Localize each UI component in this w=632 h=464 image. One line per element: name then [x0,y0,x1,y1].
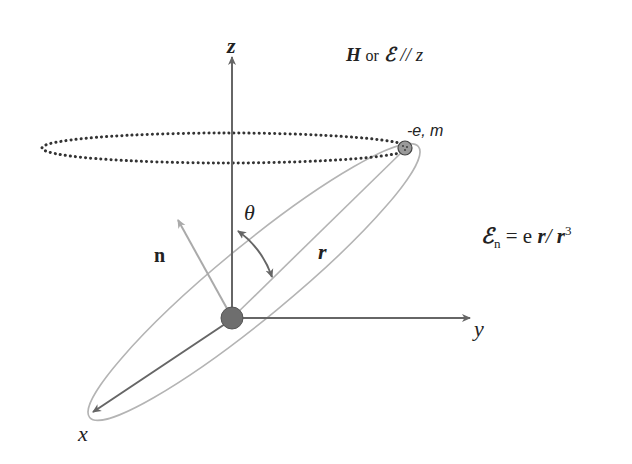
z-axis-label: z [227,35,236,57]
radius-vector-line [232,150,404,318]
z-direction: z [416,44,423,65]
formula-field-symbol: ℰ [481,224,494,248]
nucleus-dot [221,307,243,329]
theta-angle-arrow [238,231,272,277]
x-axis-label: x [78,423,88,445]
electric-field-symbol: ℰ [384,44,396,65]
formula-exponent: 3 [565,223,572,238]
y-axis-label: y [474,318,484,340]
normal-vector-label: n [154,245,165,265]
electron-label: -e, m [407,123,443,139]
or-text: or [366,47,379,64]
magnetic-field-symbol: H [346,44,361,65]
parallel-symbol: // [400,44,411,65]
radius-label: r [318,241,327,263]
electron-dot [398,141,412,155]
formula-equals: = e [501,224,538,248]
normal-vector-arrow [178,220,230,314]
theta-label: θ [244,202,255,224]
formula-r-denominator: r [557,224,565,248]
formula-slash: / [546,224,557,248]
dotted-orbit-ellipse [42,133,410,163]
formula-r: r [537,224,545,248]
field-formula: ℰn = e r/ r3 [481,224,571,250]
field-direction-label: H or ℰ // z [346,45,423,64]
